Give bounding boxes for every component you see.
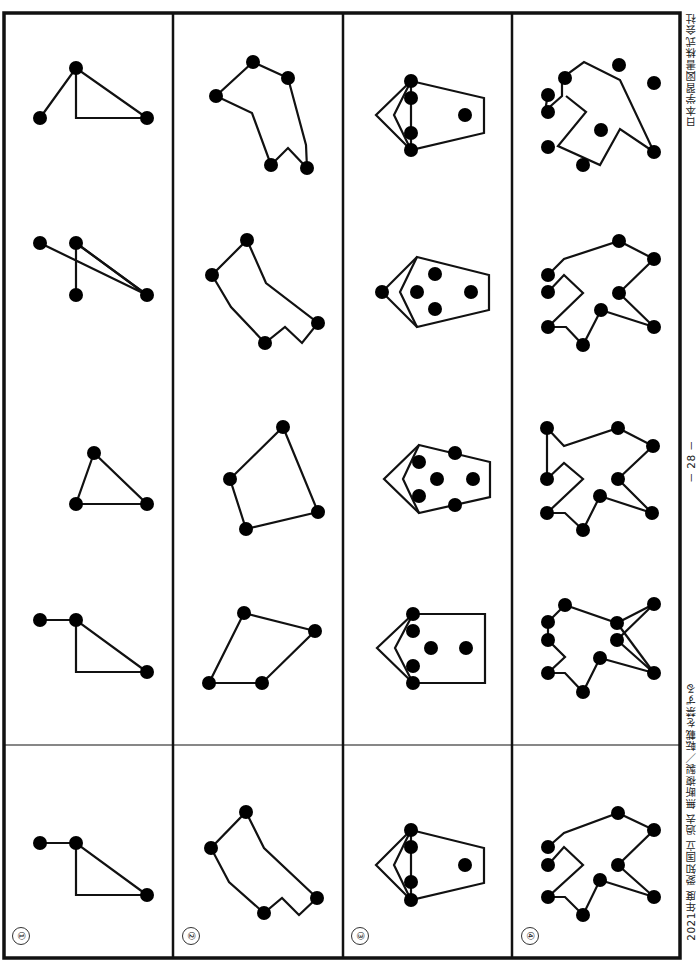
row-1-choice-4[interactable] bbox=[33, 613, 154, 679]
row-4-label: ④ bbox=[521, 927, 539, 945]
row-2-label: ② bbox=[182, 927, 200, 945]
row-2-figures bbox=[202, 55, 325, 920]
row-2-choice-1[interactable] bbox=[209, 55, 314, 175]
row-2-example bbox=[204, 805, 324, 920]
page-number: － 28 － bbox=[683, 440, 698, 483]
row-4-choice-4[interactable] bbox=[541, 597, 661, 699]
exam-page: ① ② ③ ④ 日本学習図書株式会社 － 28 － 2021年度 愛知国立 過去… bbox=[0, 0, 700, 971]
row-4-figures bbox=[540, 58, 661, 922]
row-1-choice-2[interactable] bbox=[33, 236, 154, 302]
row-3-figures bbox=[375, 74, 490, 907]
row-4-example bbox=[541, 806, 661, 922]
row-3-choice-2[interactable] bbox=[375, 257, 489, 327]
publisher-text: 日本学習図書株式会社 bbox=[683, 12, 698, 127]
row-3-choice-3[interactable] bbox=[384, 445, 490, 513]
row-3-choice-4[interactable] bbox=[377, 607, 485, 690]
copyright-notice: 2021年度 愛知国立 過去 無断複製／転載を禁ずる bbox=[683, 682, 698, 941]
row-1-label: ① bbox=[12, 927, 30, 945]
row-1-example bbox=[33, 836, 154, 902]
row-1-figures bbox=[33, 61, 154, 902]
row-4-choice-1[interactable] bbox=[541, 58, 661, 172]
row-3-example bbox=[376, 823, 484, 907]
row-1-choice-3[interactable] bbox=[69, 446, 154, 511]
row-2-choice-3[interactable] bbox=[223, 420, 325, 536]
row-4-choice-2[interactable] bbox=[541, 234, 661, 352]
row-4-choice-3[interactable] bbox=[540, 421, 660, 537]
row-3-choice-1[interactable] bbox=[376, 74, 484, 157]
row-3-label: ③ bbox=[351, 927, 369, 945]
row-2-choice-4[interactable] bbox=[202, 606, 322, 690]
row-2-choice-2[interactable] bbox=[205, 233, 325, 350]
figure-grid bbox=[0, 0, 700, 971]
row-1-choice-1[interactable] bbox=[33, 61, 154, 125]
